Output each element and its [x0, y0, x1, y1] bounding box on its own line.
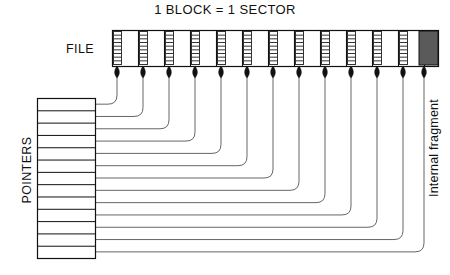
block-arrow	[245, 66, 250, 78]
block-hatch	[270, 32, 278, 65]
block-hatch-outline	[322, 32, 330, 65]
block-arrow	[401, 66, 406, 78]
block-arrow	[193, 66, 198, 78]
arrowhead	[323, 66, 328, 78]
pointer-connector	[95, 60, 143, 116]
arrowhead	[401, 66, 406, 78]
block-hatch-outline	[218, 32, 226, 65]
block-hatch-outline	[192, 32, 200, 65]
block-hatch-outline	[244, 32, 252, 65]
block-hatch-outline	[270, 32, 278, 65]
pointer-connector	[95, 60, 221, 153]
block-arrow	[323, 66, 328, 78]
block-hatch-outline	[348, 32, 356, 65]
block-hatch	[400, 32, 408, 65]
diagram-title: 1 BLOCK = 1 SECTOR	[0, 2, 450, 17]
arrowhead	[271, 66, 276, 78]
pointer-connector	[95, 60, 169, 129]
block-hatch	[114, 32, 122, 65]
pointer-connector	[95, 60, 299, 190]
pointer-connector	[95, 60, 325, 203]
block-hatch	[218, 32, 226, 65]
block-hatch-outline	[400, 32, 408, 65]
block-hatch	[296, 32, 304, 65]
pointer-connector-lines	[95, 60, 424, 252]
block-arrow	[141, 66, 146, 78]
block-hatch	[348, 32, 356, 65]
file-block-strip	[113, 31, 439, 67]
block-arrow	[297, 66, 302, 78]
block-hatch	[140, 32, 148, 65]
block-hatch-outline	[140, 32, 148, 65]
block-arrow	[115, 66, 120, 78]
arrowhead	[297, 66, 302, 78]
block-hatch-outline	[114, 32, 122, 65]
arrowhead	[167, 66, 172, 78]
arrowhead	[115, 66, 120, 78]
block-hatch	[192, 32, 200, 65]
arrowhead	[245, 66, 250, 78]
file-label: FILE	[66, 42, 94, 56]
block-allocation-diagram: 1 BLOCK = 1 SECTOR FILE POINTERS Interna…	[0, 0, 450, 275]
pointer-table	[38, 99, 96, 259]
pointer-table-outline	[38, 99, 96, 259]
arrowhead	[141, 66, 146, 78]
internal-fragment-label: Internal fragment	[427, 68, 441, 228]
arrowhead	[193, 66, 198, 78]
pointer-connector	[95, 60, 403, 240]
internal-fragment-block	[419, 31, 438, 65]
block-arrow	[271, 66, 276, 78]
pointer-connector	[95, 60, 351, 215]
block-arrow	[219, 66, 224, 78]
pointers-label: POINTERS	[20, 122, 34, 218]
block-hatch	[244, 32, 252, 65]
arrowhead	[349, 66, 354, 78]
pointer-connector	[95, 60, 424, 252]
block-hatch-outline	[166, 32, 174, 65]
arrowhead	[219, 66, 224, 78]
block-arrows	[115, 66, 427, 78]
arrowhead	[375, 66, 380, 78]
block-arrow	[167, 66, 172, 78]
arrowhead	[422, 66, 427, 78]
block-arrow	[349, 66, 354, 78]
block-hatch	[322, 32, 330, 65]
block-arrow	[375, 66, 380, 78]
pointer-connector	[95, 60, 377, 227]
block-arrow	[422, 66, 427, 78]
block-hatch	[166, 32, 174, 65]
block-hatch-outline	[374, 32, 382, 65]
block-hatch	[374, 32, 382, 65]
block-hatch-outline	[296, 32, 304, 65]
